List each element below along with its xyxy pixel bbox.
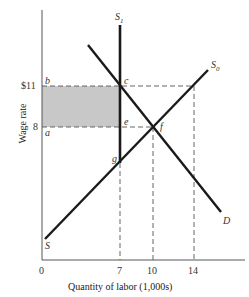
point-label-e: e bbox=[124, 117, 128, 127]
point-label-a: a bbox=[45, 128, 50, 138]
point-label-f: f bbox=[160, 122, 163, 132]
x-tick-14: 14 bbox=[188, 266, 198, 276]
curve-label-s1: S1 bbox=[115, 12, 124, 25]
x-tick-7: 7 bbox=[117, 266, 122, 276]
x-tick-0: 0 bbox=[39, 266, 44, 276]
curve-label-s0: S0 bbox=[211, 60, 220, 73]
x-tick-10: 10 bbox=[147, 266, 157, 276]
curve-label-s1-sub: 1 bbox=[120, 17, 124, 25]
demand-curve-d bbox=[88, 45, 221, 212]
curve-label-s: S bbox=[45, 241, 50, 251]
y-tick-8: 8 bbox=[33, 122, 38, 132]
y-axis-label: Wage rate bbox=[17, 94, 28, 154]
point-label-g: g bbox=[112, 154, 117, 164]
labor-market-diagram bbox=[0, 0, 249, 297]
point-label-c: c bbox=[124, 76, 128, 86]
x-axis-label: Quantity of labor (1,000s) bbox=[68, 281, 172, 292]
shaded-area bbox=[42, 86, 120, 127]
curve-label-d: D bbox=[223, 216, 230, 226]
curve-label-s0-sub: 0 bbox=[216, 65, 220, 73]
point-label-b: b bbox=[45, 76, 50, 86]
y-tick-11: $11 bbox=[21, 81, 36, 91]
